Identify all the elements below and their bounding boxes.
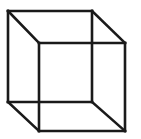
cube-edge-connector-top-left bbox=[8, 11, 39, 43]
necker-cube-canvas bbox=[0, 0, 141, 139]
necker-cube-figure bbox=[0, 0, 141, 139]
cube-edge-connector-bottom-right bbox=[92, 102, 125, 131]
cube-edge-connector-bottom-left bbox=[8, 102, 39, 131]
cube-edge-group bbox=[8, 11, 125, 131]
cube-edge-connector-top-right bbox=[92, 11, 125, 43]
